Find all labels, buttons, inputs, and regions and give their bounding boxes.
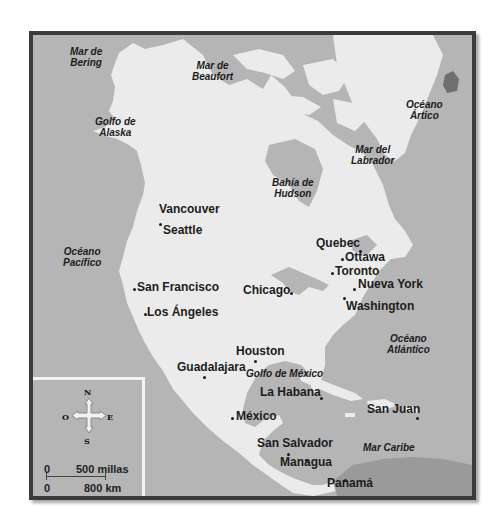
map-frame: Mar de Bering Mar de Beaufort Océano Árt… [29,31,476,500]
city-quebec: Quebec [316,237,360,250]
city-washington: Washington [346,300,414,313]
city-guadalajara: Guadalajara [177,361,246,374]
label-mar-de-bering: Mar de Bering [70,46,102,68]
city-dot-ottawa [341,258,344,261]
label-golfo-de-alaska: Golfo de Alaska [95,116,136,138]
label-line: Alaska [95,127,136,138]
city-dot-houston [254,360,257,363]
label-line: Océano [387,333,430,344]
label-mar-del-labrador: Mar del Labrador [351,144,394,166]
scale-zero-km: 0 [44,482,50,494]
city-dot-la-habana [320,397,323,400]
label-line: Bahía de [272,177,314,188]
scale-zero-miles: 0 [44,463,50,475]
label-line: Mar Caribe [363,442,415,453]
city-managua: Managua [280,456,332,469]
label-bahia-de-hudson: Bahía de Hudson [272,177,314,199]
map-legend: N S E O 0 500 millas 0 800 km [33,377,145,500]
city-vancouver: Vancouver [159,203,220,216]
label-line: Océano [63,246,101,257]
compass-east: E [107,412,113,422]
label-line: Labrador [351,155,394,166]
label-line: Bering [70,57,102,68]
city-dot-san-francisco [133,288,136,291]
label-line: Mar de [70,46,102,57]
label-line: Beaufort [192,71,233,82]
city-dot-san-juan [416,417,419,420]
compass-south: S [84,436,90,446]
city-dot-toronto [331,272,334,275]
city-dot-mexico [231,417,234,420]
label-line: Golfo de [95,116,136,127]
label-mar-de-beaufort: Mar de Beaufort [192,60,233,82]
label-line: Mar de [192,60,233,71]
scale-miles-label: 500 millas [76,463,129,475]
compass-north: N [84,387,91,397]
city-la-habana: La Habana [260,386,321,399]
label-mar-caribe: Mar Caribe [363,442,415,453]
city-chicago: Chicago [243,284,290,297]
city-dot-nueva-york [353,288,356,291]
label-oceano-atlantico: Océano Atlántico [387,333,430,355]
label-line: Hudson [272,188,314,199]
scale-tick-start [46,473,47,480]
city-dot-guadalajara [203,376,206,379]
city-san-francisco: San Francisco [137,281,219,294]
city-san-salvador: San Salvador [257,437,333,450]
scale-km-label: 800 km [84,482,121,494]
iceland [443,71,459,93]
label-line: Océano [406,99,443,110]
scale-bar [46,476,105,477]
city-los-angeles: Los Ángeles [147,306,218,319]
city-nueva-york: Nueva York [358,278,423,291]
compass-west: O [62,412,69,422]
label-golfo-de-mexico: Golfo de México [246,368,323,379]
label-line: Ártico [406,110,443,121]
city-dot-seattle [159,223,162,226]
city-san-juan: San Juan [367,403,420,416]
city-houston: Houston [236,345,285,358]
label-line: Pacífico [63,257,101,268]
jamaica [345,413,355,417]
city-mexico: México [236,410,277,423]
city-ottawa: Ottawa [345,251,385,264]
greenland [333,35,443,161]
city-seattle: Seattle [163,224,202,237]
city-panama: Panamá [327,477,373,490]
label-line: Golfo de México [246,368,323,379]
label-oceano-pacifico: Océano Pacífico [63,246,101,268]
label-line: Mar del [351,144,394,155]
label-line: Atlántico [387,344,430,355]
city-dot-chicago [290,292,293,295]
label-oceano-artico: Océano Ártico [406,99,443,121]
scale-tick-end [105,473,106,480]
